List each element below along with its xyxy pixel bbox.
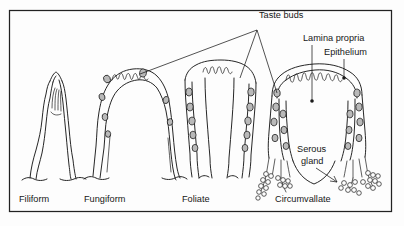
papilla-fungiform (84, 68, 187, 180)
taste-bud (244, 131, 250, 139)
taste-bud (355, 103, 362, 112)
taste-bud (98, 93, 106, 102)
gland-acinus (376, 174, 381, 179)
leader-taste-buds-fungiform (140, 30, 257, 74)
taste-bud (272, 134, 278, 141)
taste-bud (281, 126, 288, 134)
taste-bud (247, 103, 254, 111)
taste-bud (356, 134, 362, 141)
gland-acinus (262, 192, 267, 197)
caption-filiform: Filiform (19, 194, 49, 204)
gland-acinus (269, 174, 274, 179)
gland-acinus (366, 184, 371, 189)
gland-acinus (257, 190, 262, 195)
taste-bud (185, 88, 192, 96)
taste-bud (245, 117, 252, 125)
taste-bud (247, 88, 254, 96)
leader-taste-buds-circumvallate (257, 30, 277, 93)
gland-acinus (377, 182, 382, 187)
gland-acinus (259, 184, 264, 189)
gland-acinus (346, 188, 351, 193)
taste-bud (353, 89, 361, 98)
taste-bud (347, 110, 354, 118)
annotation-epithelium: Epithelium (324, 47, 367, 57)
leader-serous-gland (316, 168, 337, 182)
serous-gland-right (339, 157, 382, 195)
papillae-figure: Taste buds Lamina propria Epithelium Ser… (0, 0, 404, 226)
gland-acinus (366, 171, 371, 176)
caption-foliate: Foliate (182, 194, 210, 204)
gland-acinus (281, 178, 286, 183)
gland-acinus (353, 180, 358, 185)
taste-bud (190, 131, 196, 139)
papilla-filiform (22, 72, 86, 181)
gland-acinus (368, 178, 373, 183)
taste-bud (187, 103, 194, 111)
gland-acinus (264, 172, 269, 177)
gland-acinus (283, 184, 288, 189)
gland-acinus (357, 191, 362, 196)
papillae-diagram-svg: Taste buds Lamina propria Epithelium Ser… (0, 0, 404, 226)
gland-acinus (276, 176, 281, 181)
papilla-foliate (185, 60, 256, 178)
taste-bud (242, 144, 248, 151)
annotation-lamina-propria: Lamina propria (303, 33, 365, 43)
leader-dot-lamina-propria (310, 99, 314, 103)
leader-taste-buds-foliate (240, 30, 257, 78)
gland-acinus (342, 181, 347, 186)
annotation-serous-gland-line2: gland (301, 156, 323, 166)
papilla-circumvallate (256, 64, 382, 200)
taste-bud (192, 144, 198, 151)
leader-dot-epithelium (342, 76, 346, 80)
gland-acinus (288, 184, 293, 189)
gland-acinus (264, 186, 269, 191)
taste-bud (162, 96, 170, 105)
gland-acinus (371, 186, 376, 191)
gland-acinus (371, 173, 376, 178)
annotation-taste-buds: Taste buds (259, 10, 304, 20)
taste-bud (345, 143, 351, 150)
gland-acinus (256, 196, 260, 200)
taste-bud (189, 117, 196, 125)
caption-fungiform: Fungiform (84, 194, 126, 204)
taste-bud (102, 74, 111, 84)
taste-bud (272, 103, 279, 112)
annotation-serous-gland-line1: Serous (297, 144, 327, 154)
gland-acinus (373, 179, 378, 184)
taste-bud (280, 110, 287, 118)
gland-acinus (266, 180, 271, 185)
taste-bud (271, 118, 278, 126)
caption-circumvallate: Circumvallate (275, 194, 331, 204)
gland-acinus (339, 186, 344, 191)
gland-acinus (348, 183, 353, 188)
taste-bud (346, 126, 353, 134)
gland-acinus (261, 178, 266, 183)
gland-acinus (352, 188, 357, 193)
gland-acinus (278, 183, 283, 188)
taste-bud (357, 118, 364, 126)
gland-acinus (361, 180, 366, 185)
gland-acinus (286, 179, 291, 184)
taste-bud (283, 143, 289, 150)
